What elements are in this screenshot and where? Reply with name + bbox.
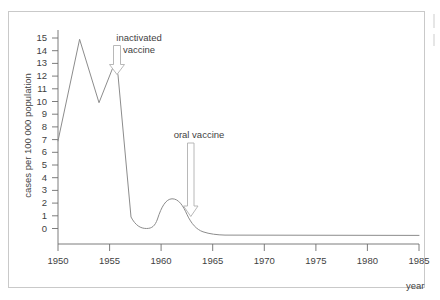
y-tick-label-3: 3 <box>31 185 47 195</box>
figure-container: 15 14 13 12 11 10 9 8 7 6 5 4 3 2 1 0 19… <box>0 0 440 300</box>
y-axis-ticks <box>52 38 58 229</box>
y-tick-label-5: 5 <box>31 160 47 170</box>
chart-plot-area <box>9 12 424 287</box>
x-tick-label-1965: 1965 <box>193 256 233 266</box>
y-tick-label-1: 1 <box>31 211 47 221</box>
y-tick-label-6: 6 <box>31 147 47 157</box>
y-axis-title: cases per 100 000 population <box>22 56 33 216</box>
x-axis-ticks <box>58 244 419 251</box>
annotation-inactivated-vaccine: inactivated vaccine <box>97 32 181 56</box>
figure-frame: 15 14 13 12 11 10 9 8 7 6 5 4 3 2 1 0 19… <box>8 11 425 288</box>
y-tick-label-12: 12 <box>31 71 47 81</box>
oral-vaccine-arrow-icon <box>184 143 199 217</box>
x-tick-label-1980: 1980 <box>347 256 387 266</box>
x-tick-label-1950: 1950 <box>38 256 78 266</box>
x-tick-label-1955: 1955 <box>90 256 130 266</box>
y-tick-label-7: 7 <box>31 135 47 145</box>
y-tick-label-13: 13 <box>31 58 47 68</box>
y-tick-label-4: 4 <box>31 173 47 183</box>
x-tick-label-1985: 1985 <box>399 256 439 266</box>
y-tick-label-0: 0 <box>31 224 47 234</box>
edge-artifact-top <box>433 14 435 28</box>
y-tick-label-14: 14 <box>31 46 47 56</box>
annotation-oral-vaccine: oral vaccine <box>157 129 241 141</box>
y-tick-label-8: 8 <box>31 122 47 132</box>
x-tick-label-1960: 1960 <box>141 256 181 266</box>
x-tick-label-1975: 1975 <box>296 256 336 266</box>
y-tick-label-10: 10 <box>31 97 47 107</box>
y-tick-label-2: 2 <box>31 198 47 208</box>
y-tick-label-11: 11 <box>31 84 47 94</box>
y-tick-label-9: 9 <box>31 109 47 119</box>
x-axis-title: year <box>406 280 424 291</box>
edge-artifact-bottom <box>433 34 435 46</box>
x-tick-label-1970: 1970 <box>244 256 284 266</box>
y-tick-label-15: 15 <box>31 33 47 43</box>
